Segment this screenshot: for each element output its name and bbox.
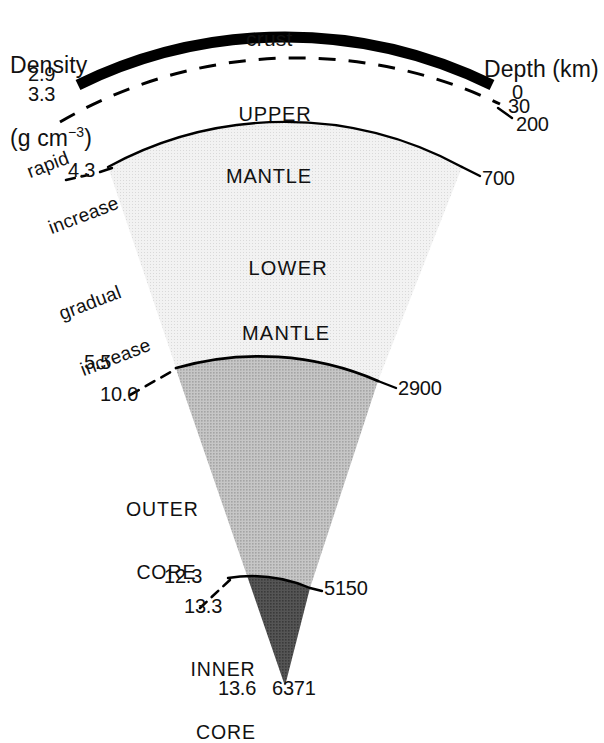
layer-label-upper-mantle-line1: UPPER xyxy=(238,104,312,125)
layer-label-inner-core-line2: CORE xyxy=(196,722,256,742)
depth-tick-700: 700 xyxy=(482,168,515,189)
layer-label-upper-mantle: UPPER MANTLE xyxy=(238,62,312,228)
layer-label-lower-mantle-line1: LOWER xyxy=(246,258,330,279)
layer-label-inner-core-line1: INNER xyxy=(190,659,256,679)
layer-label-outer-core: OUTER CORE xyxy=(126,458,199,623)
density-tick-3-3: 3.3 xyxy=(28,84,55,105)
depth-tick-6371: 6371 xyxy=(272,678,316,699)
annotation-rapid-increase-line2: increase xyxy=(46,193,122,238)
density-tick-2-9: 2.9 xyxy=(28,64,55,85)
depth-axis-title: Depth (km) xyxy=(484,58,599,82)
depth-tick-200: 200 xyxy=(516,114,549,135)
annotation-gradual-increase-line2: increase xyxy=(78,335,154,380)
layer-label-outer-core-line2: CORE xyxy=(134,562,199,582)
depth-tick-5150: 5150 xyxy=(324,578,368,599)
layer-label-crust: crust xyxy=(246,28,293,50)
leader-5150 xyxy=(310,588,322,591)
layer-label-lower-mantle: LOWER MANTLE xyxy=(246,216,330,385)
leader-2900 xyxy=(378,381,396,388)
annotation-rapid-increase-line1: rapid xyxy=(24,137,100,182)
annotation-gradual-increase-line1: gradual xyxy=(56,279,132,324)
layer-label-inner-core: INNER CORE xyxy=(190,618,256,743)
layer-label-lower-mantle-line2: MANTLE xyxy=(242,323,330,344)
depth-tick-2900: 2900 xyxy=(398,378,442,399)
layer-label-outer-core-line1: OUTER xyxy=(126,499,199,519)
layer-outer-core xyxy=(176,356,378,588)
leader-700 xyxy=(462,167,480,176)
layer-label-upper-mantle-line2: MANTLE xyxy=(226,166,312,187)
